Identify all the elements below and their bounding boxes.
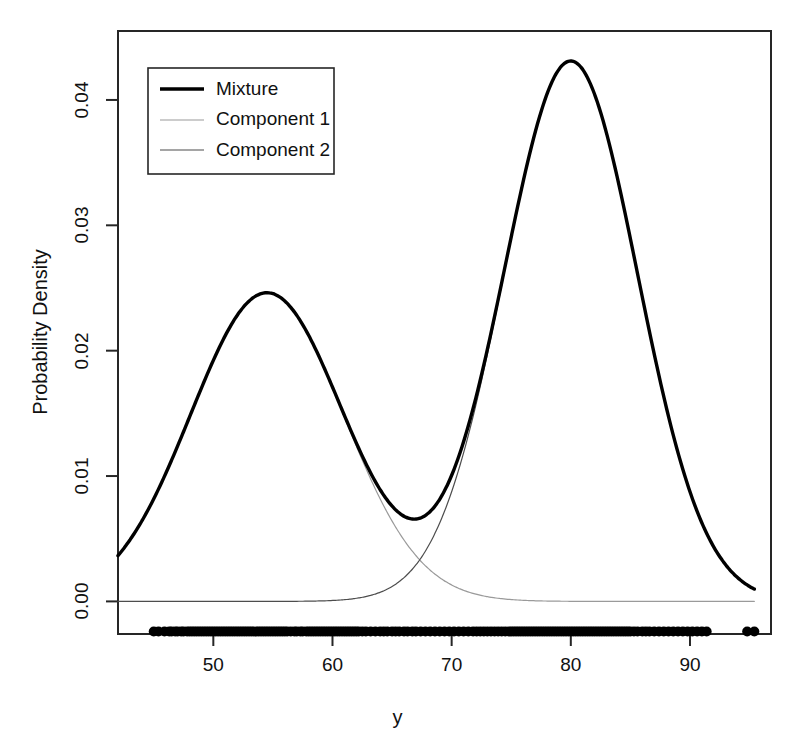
- legend-entry-3: Component 2: [216, 139, 330, 161]
- chart-canvas: [0, 0, 795, 749]
- x-tick-label: 50: [203, 654, 224, 676]
- y-axis-label: Probability Density: [29, 249, 52, 415]
- y-tick-label: 0.03: [71, 207, 93, 244]
- x-tick-label: 60: [322, 654, 343, 676]
- component-1-curve: [118, 293, 754, 602]
- y-tick-label: 0.04: [71, 81, 93, 118]
- legend-entry-2: Component 1: [216, 108, 330, 130]
- rug-point: [702, 626, 712, 636]
- x-tick-label: 90: [679, 654, 700, 676]
- x-tick-label: 80: [560, 654, 581, 676]
- x-tick-label: 70: [441, 654, 462, 676]
- legend-entry-1: Mixture: [216, 78, 278, 100]
- rug-plot-points: [149, 626, 760, 636]
- y-axis-ticks: [106, 100, 118, 601]
- plot-root: MixtureComponent 1Component 2 5060708090…: [0, 0, 795, 749]
- y-tick-label: 0.02: [71, 332, 93, 369]
- y-tick-label: 0.01: [71, 458, 93, 495]
- x-axis-label: y: [0, 706, 795, 729]
- y-tick-label: 0.00: [71, 583, 93, 620]
- rug-point: [749, 626, 759, 636]
